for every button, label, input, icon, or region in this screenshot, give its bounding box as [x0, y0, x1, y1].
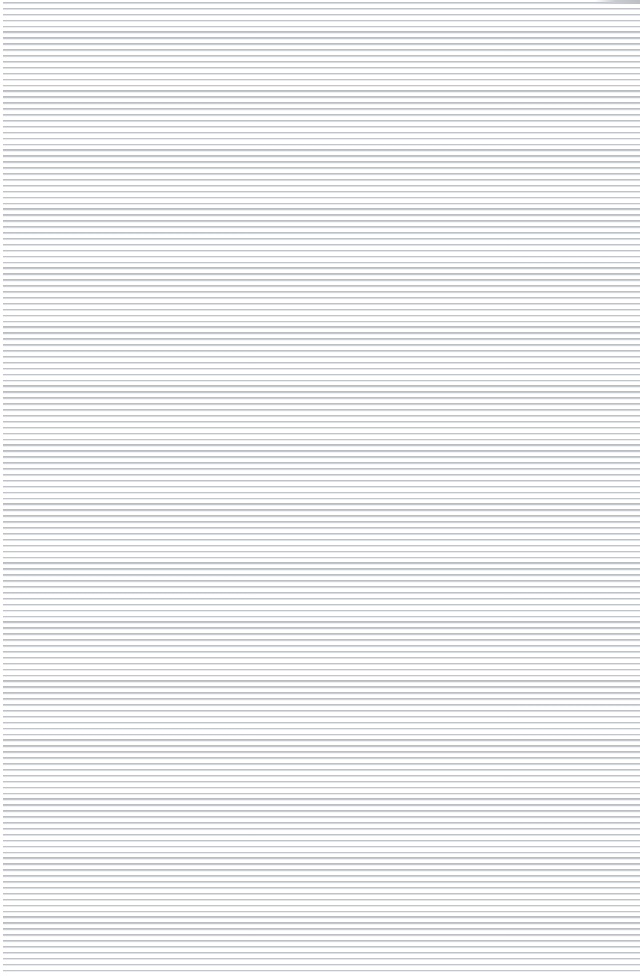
left-edge-gutter: [0, 0, 3, 978]
screenshot-viewport: Blank page — no rendered content Empty d…: [0, 0, 640, 978]
bottom-blank-strip: [0, 972, 640, 978]
top-right-grey-band: [595, 0, 640, 4]
horizontal-scanline-pattern: [3, 2, 640, 972]
